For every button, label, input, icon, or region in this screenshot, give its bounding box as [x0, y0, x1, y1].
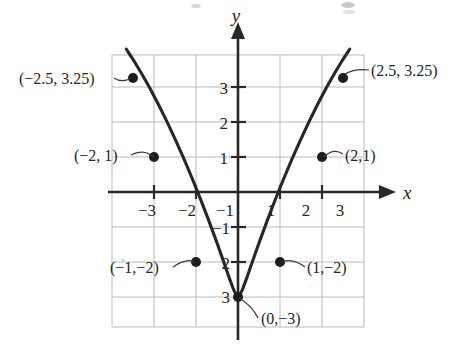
data-point-neg2.5-3.25 [128, 73, 138, 83]
graph-figure: y x −3 −2 −1 1 2 3 3 2 1 −1 2 3 [0, 0, 451, 344]
point-label-mid-right: (2,1) [345, 147, 376, 165]
y-tick-label-1: 1 [220, 149, 229, 168]
x-tick-label-neg2: −2 [178, 201, 196, 220]
x-axis-label: x [402, 182, 412, 203]
scan-speck [343, 10, 355, 14]
x-tick-label-2: 2 [302, 201, 311, 220]
data-point-neg1-neg2 [191, 257, 201, 267]
point-label-lower-right: (1,−2) [307, 259, 347, 277]
x-tick-label-3: 3 [336, 201, 345, 220]
data-point-2-1 [317, 152, 327, 162]
point-label-mid-left: (−2, 1) [74, 147, 118, 165]
point-label-upper-left: (−2.5, 3.25) [19, 70, 95, 88]
data-point-0-neg3 [233, 292, 243, 302]
x-tick-label-neg1: −1 [216, 201, 234, 220]
point-label-upper-right: (2.5, 3.25) [371, 62, 438, 80]
data-point-2.5-3.25 [338, 73, 348, 83]
y-tick-label-3: 3 [220, 79, 229, 98]
x-tick-label-neg3: −3 [138, 201, 156, 220]
scan-speck [341, 2, 355, 8]
data-point-neg2-1 [149, 152, 159, 162]
y-axis-label: y [230, 5, 241, 26]
point-label-vertex: (0,−3) [261, 310, 301, 328]
y-tick-label-2: 2 [220, 114, 229, 133]
point-label-lower-left: (−1,−2) [110, 259, 159, 277]
parabola-graph-svg: y x −3 −2 −1 1 2 3 3 2 1 −1 2 3 [0, 0, 451, 344]
scan-speck [191, 4, 201, 8]
y-tick-label-neg3: 3 [222, 288, 231, 307]
